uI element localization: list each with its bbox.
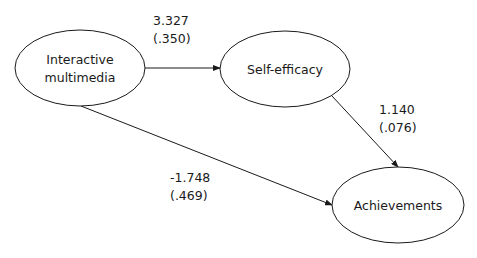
std-error: (.469) — [170, 188, 208, 203]
node-label: Self-efficacy — [247, 62, 324, 77]
edge-label-multimedia-to-self-efficacy: 3.327 (.350) — [153, 13, 191, 46]
node-achievements: Achievements — [332, 167, 464, 243]
coefficient: -1.748 — [170, 170, 210, 185]
coefficient: 1.140 — [379, 102, 415, 117]
std-error: (.350) — [153, 31, 191, 46]
edge-label-self-efficacy-to-achievements: 1.140 (.076) — [379, 102, 417, 135]
node-label-line1: Interactive — [46, 52, 114, 67]
edge-label-multimedia-to-achievements: -1.748 (.469) — [170, 170, 210, 203]
node-ellipse — [15, 30, 145, 106]
node-interactive-multimedia: Interactive multimedia — [15, 30, 145, 106]
path-diagram: Interactive multimedia Self-efficacy Ach… — [0, 0, 477, 258]
node-label: Achievements — [354, 198, 443, 213]
node-label-line2: multimedia — [45, 70, 116, 85]
node-self-efficacy: Self-efficacy — [220, 31, 350, 107]
coefficient: 3.327 — [153, 13, 189, 28]
std-error: (.076) — [379, 120, 417, 135]
